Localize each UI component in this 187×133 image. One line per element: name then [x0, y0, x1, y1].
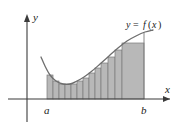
y-axis-arrowhead: [24, 14, 30, 22]
figure-canvas: y x a b y = f ( x ): [0, 0, 187, 133]
riemann-rectangles: [47, 43, 144, 99]
riemann-rectangle: [89, 73, 95, 99]
x-axis-label: x: [164, 83, 170, 95]
riemann-rectangle: [59, 84, 65, 99]
x-axis-arrowhead: [163, 96, 170, 102]
curve-label-variable: x: [151, 19, 157, 30]
riemann-rectangle: [101, 63, 108, 99]
riemann-rectangle: [65, 84, 71, 99]
riemann-rectangle: [95, 68, 101, 99]
upper-bound-label: b: [141, 104, 147, 116]
y-axis-label: y: [32, 11, 38, 23]
riemann-rectangle: [108, 57, 115, 99]
curve-label-f: f: [143, 19, 147, 30]
riemann-rectangle: [71, 84, 77, 99]
curve-label-equals: =: [133, 19, 139, 30]
riemann-rectangle: [53, 81, 59, 99]
riemann-rectangle: [115, 50, 122, 99]
riemann-rectangle: [47, 75, 53, 99]
curve-label-close-paren: ): [158, 19, 161, 31]
riemann-sum-figure: y x a b y = f ( x ): [0, 0, 187, 133]
curve-label-y: y: [125, 19, 131, 30]
riemann-rectangle: [77, 81, 83, 99]
riemann-rectangle: [122, 43, 144, 99]
riemann-rectangle: [83, 78, 89, 99]
curve-equation-label: y = f ( x ): [125, 19, 161, 31]
lower-bound-label: a: [44, 104, 50, 116]
